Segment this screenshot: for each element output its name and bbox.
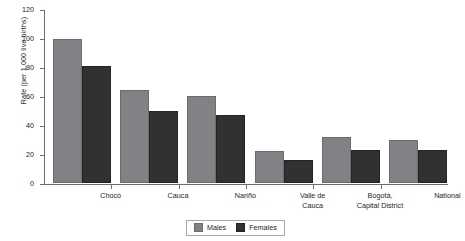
x-tick — [179, 185, 180, 189]
bar-females — [149, 111, 178, 184]
y-tick-80: 80 — [40, 68, 44, 69]
y-tick-label-80: 80 — [26, 63, 34, 72]
x-category-label-line: National — [387, 191, 465, 201]
bar-females — [418, 150, 447, 183]
y-tick-120: 120 — [40, 10, 44, 11]
bar-group: Chocó — [53, 9, 111, 183]
legend-label-females: Females — [249, 223, 277, 232]
x-tick — [381, 185, 382, 189]
bar-males — [255, 151, 284, 183]
bar-group: Cauca — [120, 9, 178, 183]
y-tick-label-100: 100 — [22, 34, 34, 43]
x-tick — [313, 185, 314, 189]
x-category-label: National — [387, 191, 465, 201]
bar-males — [322, 137, 351, 183]
y-tick-20: 20 — [40, 155, 44, 156]
legend-item-females: Females — [236, 223, 277, 232]
bar-females — [216, 115, 245, 183]
y-tick-0: 0 — [40, 184, 44, 185]
bar-males — [389, 140, 418, 184]
x-tick — [246, 185, 247, 189]
bar-females — [351, 150, 380, 183]
bar-males — [53, 39, 82, 183]
bar-females — [284, 160, 313, 183]
y-axis-line — [44, 10, 45, 185]
plot-area: 020406080100120 ChocóCaucaNariñoValle de… — [44, 10, 448, 184]
y-tick-label-60: 60 — [26, 92, 34, 101]
bar-group: Bogotá,Capital District — [322, 9, 380, 183]
x-category-label-line: Capital District — [320, 201, 440, 211]
x-tick — [111, 185, 112, 189]
y-tick-60: 60 — [40, 97, 44, 98]
y-tick-label-40: 40 — [26, 121, 34, 130]
legend-label-males: Males — [207, 223, 226, 232]
y-tick-40: 40 — [40, 126, 44, 127]
bar-group: Valle deCauca — [255, 9, 313, 183]
y-tick-label-20: 20 — [26, 150, 34, 159]
bar-females — [82, 66, 111, 183]
bar-group: National — [389, 9, 447, 183]
bar-group: Nariño — [187, 9, 245, 183]
legend-swatch-males — [194, 223, 203, 232]
chart-legend: Males Females — [186, 220, 285, 236]
bar-males — [120, 90, 149, 183]
y-tick-100: 100 — [40, 39, 44, 40]
legend-item-males: Males — [194, 223, 226, 232]
y-tick-label-120: 120 — [22, 5, 34, 14]
bar-males — [187, 96, 216, 183]
y-tick-label-0: 0 — [30, 179, 34, 188]
legend-swatch-females — [236, 223, 245, 232]
